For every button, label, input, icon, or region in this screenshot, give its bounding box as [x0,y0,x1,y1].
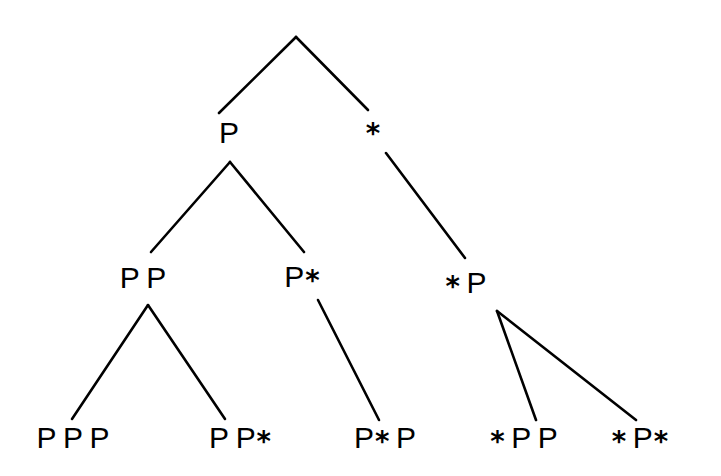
nonterminal-p-symbol: P [633,421,653,454]
terminal-star-symbol: * [257,425,271,458]
tree-edges-layer [0,0,721,476]
tree-node-n-l1-left: P [219,118,239,148]
nonterminal-p-symbol: P [36,421,56,454]
nonterminal-p-symbol: P [511,421,531,454]
tree-node-n-l3-d: *PP [490,423,558,453]
tree-edge [72,305,148,419]
tree-edge [230,162,304,252]
terminal-star-symbol: * [654,425,668,458]
tree-edge [219,37,296,113]
nonterminal-p-symbol: P [236,421,256,454]
nonterminal-p-symbol: P [284,260,304,293]
nonterminal-p-symbol: P [219,116,239,149]
derivation-tree-figure: P*PPP**PPPPPP*P*P*PP*P* [0,0,721,476]
tree-node-n-l3-c: P*P [354,423,416,453]
nonterminal-p-symbol: P [63,421,83,454]
terminal-star-symbol: * [445,270,459,303]
tree-edge [296,37,368,110]
tree-edge [386,153,465,258]
nonterminal-p-symbol: P [538,421,558,454]
terminal-star-symbol: * [366,117,380,150]
nonterminal-p-symbol: P [209,421,229,454]
tree-node-n-l3-a: PPP [36,423,109,453]
tree-edge [318,300,379,420]
nonterminal-p-symbol: P [467,266,487,299]
nonterminal-p-symbol: P [354,421,374,454]
terminal-star-symbol: * [305,264,319,297]
tree-node-n-l2-a: PP [120,263,167,293]
tree-node-n-l2-b: P* [284,262,319,292]
tree-node-n-l2-c: *P [445,268,486,298]
terminal-star-symbol: * [375,425,389,458]
tree-edge [151,162,230,252]
nonterminal-p-symbol: P [396,421,416,454]
terminal-star-symbol: * [612,425,626,458]
tree-node-n-l1-right: * [366,115,380,145]
terminal-star-symbol: * [490,425,504,458]
tree-edge [148,305,225,419]
nonterminal-p-symbol: P [120,261,140,294]
tree-node-n-l3-b: PP* [209,423,271,453]
tree-node-n-l3-e: *P* [612,423,668,453]
nonterminal-p-symbol: P [90,421,110,454]
nonterminal-p-symbol: P [146,261,166,294]
